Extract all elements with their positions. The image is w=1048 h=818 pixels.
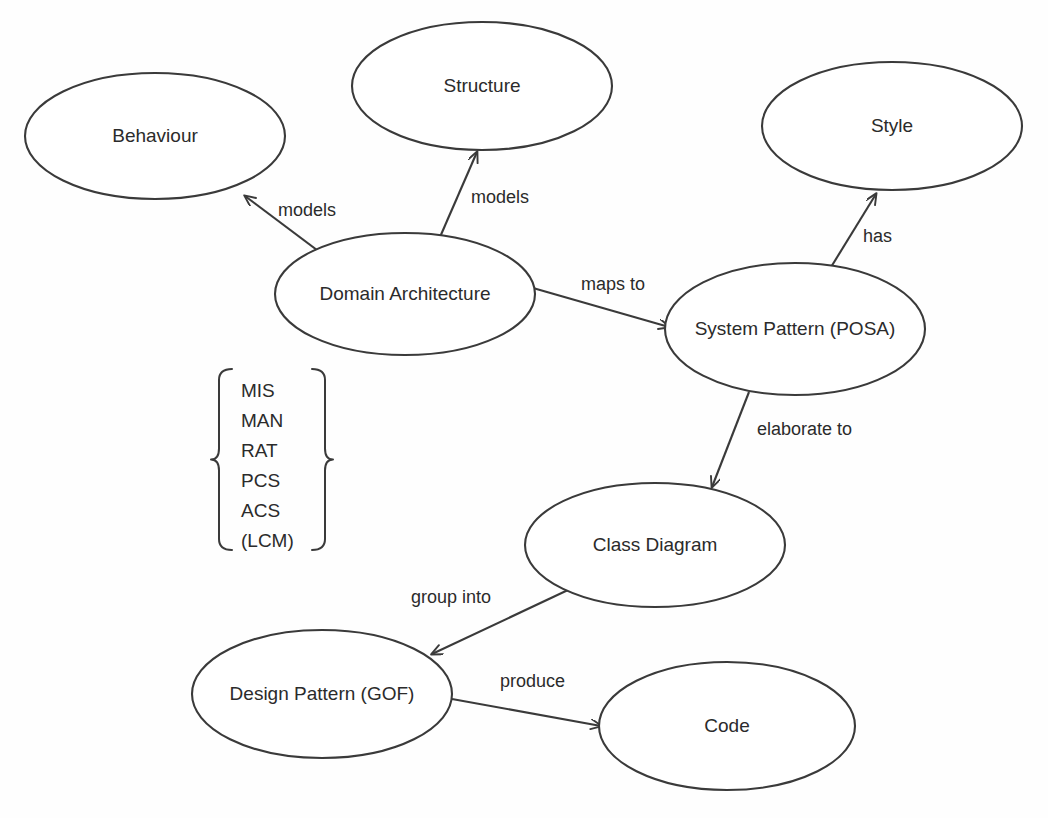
edge-label-dp-produce-code: produce [500, 671, 565, 691]
node-domain-architecture[interactable]: Domain Architecture [275, 233, 535, 355]
node-system-pattern[interactable]: System Pattern (POSA) [665, 263, 925, 395]
bracket-item: PCS [241, 470, 280, 491]
node-label-class-diagram: Class Diagram [593, 534, 718, 555]
edge-label-sp-elaborateto-cd: elaborate to [757, 419, 852, 439]
node-label-system-pattern: System Pattern (POSA) [695, 318, 896, 339]
left-curly-bracket-icon [211, 369, 232, 550]
node-style[interactable]: Style [762, 62, 1022, 190]
edge-dp-produce-code [452, 699, 601, 726]
node-design-pattern[interactable]: Design Pattern (GOF) [192, 630, 452, 758]
concept-map-svg: BehaviourStructureStyleDomain Architectu… [0, 0, 1048, 818]
node-label-behaviour: Behaviour [112, 125, 198, 146]
bracket-item: MIS [241, 380, 275, 401]
node-class-diagram[interactable]: Class Diagram [525, 483, 785, 607]
node-code[interactable]: Code [599, 662, 855, 790]
bracket-item: MAN [241, 410, 283, 431]
bracket-item: (LCM) [241, 530, 294, 551]
node-behaviour[interactable]: Behaviour [25, 73, 285, 199]
node-label-code: Code [704, 715, 749, 736]
edge-label-da-models-behaviour: models [278, 200, 336, 220]
bracket-item: RAT [241, 440, 278, 461]
edge-da-mapsto-sp [533, 288, 669, 327]
node-label-structure: Structure [443, 75, 520, 96]
node-label-style: Style [871, 115, 913, 136]
edge-label-cd-groupinto-dp: group into [411, 587, 491, 607]
right-curly-bracket-icon [312, 369, 333, 550]
diagram-canvas: BehaviourStructureStyleDomain Architectu… [0, 0, 1048, 818]
edge-sp-elaborateto-cd [712, 392, 749, 487]
edge-label-da-models-structure: models [471, 187, 529, 207]
edge-label-sp-has-style: has [863, 226, 892, 246]
node-label-domain-architecture: Domain Architecture [319, 283, 490, 304]
node-label-design-pattern: Design Pattern (GOF) [230, 683, 415, 704]
bracket-item: ACS [241, 500, 280, 521]
node-structure[interactable]: Structure [352, 22, 612, 150]
bracket-group: MISMANRATPCSACS(LCM) [211, 369, 333, 551]
edge-label-da-mapsto-sp: maps to [581, 274, 645, 294]
